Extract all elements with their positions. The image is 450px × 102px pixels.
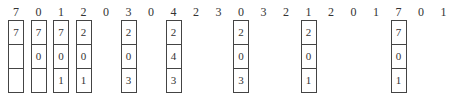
frame-cell: 1 <box>392 69 406 92</box>
frame-cell: 2 <box>234 21 248 45</box>
frame-column: 203 <box>121 20 137 93</box>
frame-cell: 0 <box>54 45 68 69</box>
frame-cell: 0 <box>122 45 136 69</box>
frame-cell: 0 <box>77 45 91 69</box>
frame-column: 201 <box>76 20 92 93</box>
frame-cell: 0 <box>32 45 46 69</box>
frame-cell: 2 <box>122 21 136 45</box>
reference-value: 0 <box>32 5 46 20</box>
frame-cell: 2 <box>302 21 316 45</box>
reference-value: 7 <box>9 5 23 20</box>
frame-cell: 3 <box>234 69 248 92</box>
frame-cell: 0 <box>302 45 316 69</box>
frame-column: 243 <box>166 20 182 93</box>
frame-cell: 2 <box>77 21 91 45</box>
frame-column: 203 <box>233 20 249 93</box>
frame-cell: 1 <box>77 69 91 92</box>
frame-cell: 1 <box>54 69 68 92</box>
frame-column: 201 <box>301 20 317 93</box>
frame-column: 70 <box>31 20 47 93</box>
reference-value: 0 <box>144 5 158 20</box>
reference-value: 1 <box>369 5 383 20</box>
reference-value: 2 <box>279 5 293 20</box>
frame-column: 701 <box>391 20 407 93</box>
frame-cell: 7 <box>392 21 406 45</box>
reference-value: 1 <box>437 5 450 20</box>
reference-value: 3 <box>212 5 226 20</box>
reference-value: 0 <box>414 5 428 20</box>
reference-value: 3 <box>257 5 271 20</box>
reference-value: 2 <box>77 5 91 20</box>
frame-cell: 3 <box>122 69 136 92</box>
frame-cell: 2 <box>167 21 181 45</box>
frame-column: 701 <box>53 20 69 93</box>
reference-value: 1 <box>54 5 68 20</box>
reference-value: 7 <box>392 5 406 20</box>
frame-cell: 4 <box>167 45 181 69</box>
reference-value: 2 <box>189 5 203 20</box>
frame-cell: 7 <box>9 21 23 45</box>
frame-column: 7 <box>8 20 24 93</box>
frame-cell: 3 <box>167 69 181 92</box>
frame-cell: 1 <box>302 69 316 92</box>
frame-cell <box>9 69 23 92</box>
reference-value: 0 <box>347 5 361 20</box>
reference-value: 3 <box>122 5 136 20</box>
frame-cell: 7 <box>54 21 68 45</box>
frame-cell <box>9 45 23 69</box>
reference-value: 1 <box>302 5 316 20</box>
reference-value: 0 <box>234 5 248 20</box>
frame-cell: 7 <box>32 21 46 45</box>
frame-cell: 0 <box>392 45 406 69</box>
reference-value: 4 <box>167 5 181 20</box>
frame-cell: 0 <box>234 45 248 69</box>
frame-cell <box>32 69 46 92</box>
reference-value: 2 <box>324 5 338 20</box>
reference-value: 0 <box>99 5 113 20</box>
